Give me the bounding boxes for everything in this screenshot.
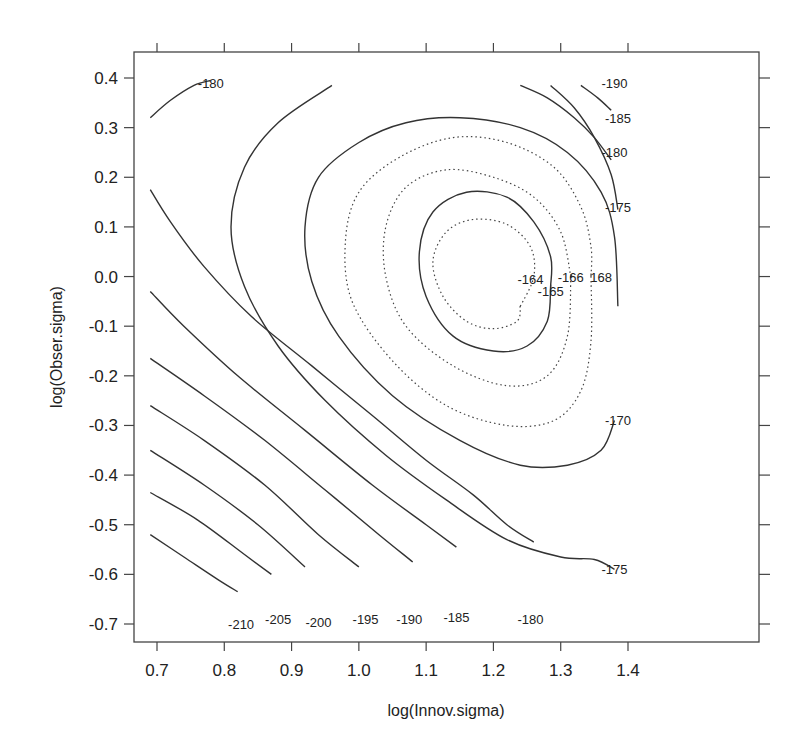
contour-line-neg170 bbox=[305, 118, 618, 468]
contour-label: -200 bbox=[305, 615, 331, 630]
x-tick-label: 1.1 bbox=[414, 661, 438, 680]
y-axis-title: log(Obser.sigma) bbox=[48, 286, 65, 408]
x-tick-label: 0.8 bbox=[212, 661, 236, 680]
contour-line-neg180 bbox=[150, 190, 534, 542]
y-tick-label: -0.4 bbox=[89, 466, 118, 485]
x-axis-ticks: 0.70.80.91.01.11.21.31.4 bbox=[145, 642, 640, 680]
x-tick-label: 1.3 bbox=[549, 661, 573, 680]
contour-line-neg210 bbox=[150, 535, 237, 592]
contour-labels: -180-190-185-180-175-164-165-166168-170-… bbox=[198, 76, 631, 632]
contour-label: -165 bbox=[538, 284, 564, 299]
x-tick-label: 0.7 bbox=[145, 661, 169, 680]
contour-label: -170 bbox=[605, 413, 631, 428]
contour-label: -166 bbox=[558, 270, 584, 285]
y-tick-label: 0.1 bbox=[94, 218, 118, 237]
y-tick-label: -0.3 bbox=[89, 416, 118, 435]
contour-label: -210 bbox=[228, 617, 254, 632]
y-tick-label: 0.2 bbox=[94, 168, 118, 187]
y-tick-label: -0.6 bbox=[89, 565, 118, 584]
contour-line-neg180 bbox=[520, 85, 611, 159]
x-tick-label: 1.0 bbox=[347, 661, 371, 680]
contour-line-neg175 bbox=[231, 85, 615, 569]
y-tick-label: -0.2 bbox=[89, 367, 118, 386]
y-tick-label: 0.3 bbox=[94, 119, 118, 138]
contour-label: -175 bbox=[602, 562, 628, 577]
contour-line-neg190 bbox=[150, 358, 412, 562]
contour-label: -185 bbox=[605, 111, 631, 126]
plot-frame bbox=[134, 52, 759, 642]
contour-label: -185 bbox=[443, 610, 469, 625]
x-tick-label: 1.4 bbox=[616, 661, 640, 680]
contour-line-neg195 bbox=[150, 406, 359, 567]
contour-lines bbox=[150, 81, 618, 592]
contour-label: -180 bbox=[198, 76, 224, 91]
y-tick-label: -0.7 bbox=[89, 615, 118, 634]
x-tick-label: 1.2 bbox=[482, 661, 506, 680]
x-axis-title: log(Innov.sigma) bbox=[387, 702, 504, 719]
y-tick-label: 0.0 bbox=[94, 268, 118, 287]
y-axis-ticks: 0.40.30.20.10.0-0.1-0.2-0.3-0.4-0.5-0.6-… bbox=[89, 69, 134, 634]
contour-line-neg185 bbox=[150, 291, 456, 547]
y-tick-label: -0.1 bbox=[89, 317, 118, 336]
y-tick-label: 0.4 bbox=[94, 69, 118, 88]
contour-label: -180 bbox=[517, 612, 543, 627]
y-axis-right-ticks bbox=[759, 78, 770, 624]
contour-line-neg168 bbox=[345, 137, 592, 427]
contour-label: -190 bbox=[396, 612, 422, 627]
y-tick-label: -0.5 bbox=[89, 516, 118, 535]
contour-label: -195 bbox=[353, 612, 379, 627]
contour-label: -205 bbox=[265, 612, 291, 627]
contour-line-neg205 bbox=[150, 493, 271, 575]
contour-label: -180 bbox=[602, 145, 628, 160]
x-tick-label: 0.9 bbox=[280, 661, 304, 680]
contour-label: -175 bbox=[605, 200, 631, 215]
contour-plot: 0.70.80.91.01.11.21.31.4 0.40.30.20.10.0… bbox=[0, 0, 805, 753]
x-axis-top-ticks bbox=[157, 43, 628, 52]
contour-label: 168 bbox=[590, 270, 612, 285]
contour-label: -190 bbox=[602, 76, 628, 91]
